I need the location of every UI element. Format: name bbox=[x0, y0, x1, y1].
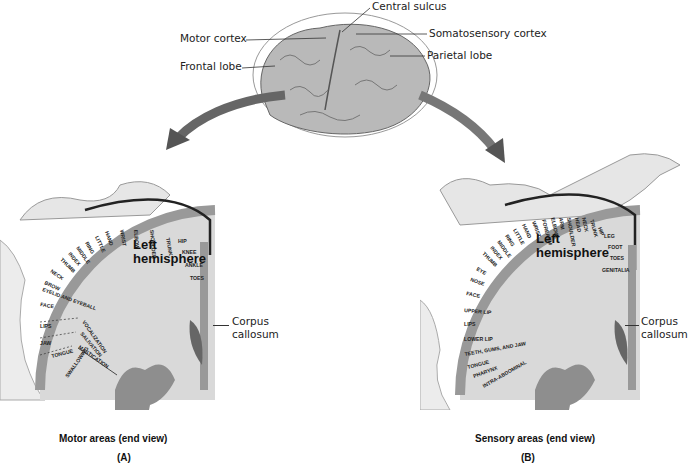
panel-b-caption: Sensory areas (end view) bbox=[475, 433, 595, 444]
svg-text:TOES: TOES bbox=[610, 255, 625, 261]
svg-text:FACE: FACE bbox=[466, 290, 481, 299]
svg-text:EYE: EYE bbox=[476, 266, 488, 277]
panel-b-corpus-leader bbox=[625, 325, 639, 326]
svg-text:LIPS: LIPS bbox=[40, 323, 52, 329]
svg-text:NOSE: NOSE bbox=[470, 276, 486, 287]
label-motor-cortex: Motor cortex bbox=[180, 32, 247, 44]
panel-b-hemisphere-label: Left hemisphere bbox=[536, 232, 609, 260]
svg-text:TOES: TOES bbox=[190, 275, 205, 281]
panel-a-caption: Motor areas (end view) bbox=[59, 433, 167, 444]
svg-text:HAND: HAND bbox=[104, 230, 115, 246]
label-frontal-lobe: Frontal lobe bbox=[180, 60, 242, 72]
panel-a-corpus-leader bbox=[213, 325, 229, 326]
svg-text:GENITALIA: GENITALIA bbox=[602, 267, 630, 273]
motor-homunculus-diagram: TOES ANKLE KNEE HIP TRUNK SHOULDER ELBOW… bbox=[0, 150, 260, 410]
svg-text:LOWER LIP: LOWER LIP bbox=[464, 336, 493, 342]
svg-text:FACE: FACE bbox=[40, 301, 55, 309]
panel-a-corpus-callosum-label: Corpus callosum bbox=[232, 315, 279, 341]
panel-b-letter: (B) bbox=[521, 452, 535, 463]
label-somatosensory-cortex: Somatosensory cortex bbox=[429, 27, 547, 39]
label-parietal-lobe: Parietal lobe bbox=[427, 49, 492, 61]
panel-a-letter: (A) bbox=[117, 452, 131, 463]
svg-text:LIPS: LIPS bbox=[464, 321, 476, 327]
sensory-homunculus-diagram: GENITALIA TOES FOOT LEG HIP TRUNK NECK H… bbox=[420, 150, 690, 410]
panel-b-corpus-callosum-label: Corpus callosum bbox=[641, 315, 688, 341]
svg-text:FOOT: FOOT bbox=[608, 244, 623, 250]
svg-text:UPPER LIP: UPPER LIP bbox=[464, 307, 492, 315]
panel-a-hemisphere-label: Left hemisphere bbox=[133, 238, 206, 266]
label-central-sulcus: Central sulcus bbox=[372, 0, 447, 12]
svg-text:JAW: JAW bbox=[40, 340, 51, 346]
svg-text:NECK: NECK bbox=[49, 268, 65, 281]
